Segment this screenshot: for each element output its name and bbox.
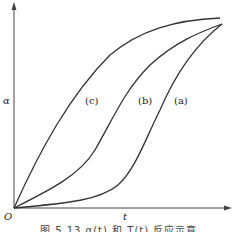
origin-label: O xyxy=(4,212,12,222)
curve-b-label: (b) xyxy=(138,96,152,106)
curve-c xyxy=(14,18,220,208)
y-axis-label: α xyxy=(3,96,10,106)
x-axis-label: t xyxy=(123,212,127,222)
curve-b xyxy=(14,24,222,208)
y-axis-arrow-icon xyxy=(12,2,17,10)
x-axis-arrow-icon xyxy=(224,206,232,211)
curve-a xyxy=(14,24,222,208)
curve-a-label: (a) xyxy=(174,96,188,106)
figure-caption: 图 5.13 α(t) 和 T(t) 反应示意 xyxy=(40,222,220,232)
diagram-canvas xyxy=(0,0,235,232)
curve-c-label: (c) xyxy=(85,96,98,106)
